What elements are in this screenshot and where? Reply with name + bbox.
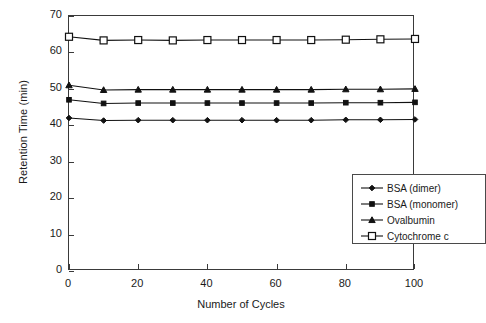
legend-marker-icon xyxy=(359,213,385,227)
y-axis-tick-label: 40 xyxy=(24,118,62,129)
y-axis-tick xyxy=(69,89,74,90)
data-point xyxy=(66,33,73,40)
y-axis-tick xyxy=(69,52,74,53)
data-point xyxy=(66,82,72,88)
plot-area: BSA (dimer)BSA (monomer)OvalbuminCytochr… xyxy=(68,15,414,270)
y-axis-tick xyxy=(69,162,74,163)
series-bsa-monomer xyxy=(67,97,418,105)
data-point xyxy=(204,37,211,44)
data-point xyxy=(135,117,141,123)
data-point xyxy=(239,37,246,44)
data-point xyxy=(412,35,419,42)
legend-item: Ovalbumin xyxy=(359,212,485,228)
y-axis-tick-label: 30 xyxy=(24,155,62,166)
legend-label: BSA (dimer) xyxy=(385,183,441,194)
y-axis-tick xyxy=(69,198,74,199)
data-point xyxy=(171,101,176,106)
y-axis-tick-label: 60 xyxy=(24,45,62,56)
data-point xyxy=(377,36,384,43)
data-point xyxy=(412,117,418,123)
data-point xyxy=(342,36,349,43)
legend-marker-icon xyxy=(359,229,385,243)
legend-marker-icon xyxy=(359,197,385,211)
y-axis-tick-label: 50 xyxy=(24,82,62,93)
data-point xyxy=(170,117,176,123)
y-axis-tick xyxy=(69,16,74,17)
y-axis-tick-label: 0 xyxy=(24,264,62,275)
x-axis-tick xyxy=(138,264,139,269)
x-axis-tick xyxy=(346,264,347,269)
data-point xyxy=(101,101,106,106)
x-axis-tick-label: 40 xyxy=(186,278,226,289)
data-point xyxy=(309,101,314,106)
x-axis-title: Number of Cycles xyxy=(68,298,414,310)
x-axis-tick-label: 0 xyxy=(48,278,88,289)
data-point xyxy=(240,101,245,106)
series-cytochrome-c xyxy=(66,33,419,44)
data-point xyxy=(413,100,418,105)
data-point xyxy=(239,117,245,123)
legend-item: Cytochrome c xyxy=(359,228,485,244)
data-point xyxy=(343,117,349,123)
y-axis-tick xyxy=(69,271,74,272)
data-point xyxy=(274,101,279,106)
legend-label: Ovalbumin xyxy=(385,215,435,226)
legend-marker-icon xyxy=(359,181,385,195)
data-point xyxy=(101,118,107,124)
y-axis-tick-label: 70 xyxy=(24,9,62,20)
data-point xyxy=(66,115,72,121)
x-axis-tick-label: 100 xyxy=(394,278,434,289)
data-point xyxy=(205,101,210,106)
data-point xyxy=(378,117,384,123)
data-point xyxy=(274,117,280,123)
data-point xyxy=(344,100,349,105)
y-axis-tick xyxy=(69,125,74,126)
data-point xyxy=(67,97,72,102)
x-axis-tick-label: 20 xyxy=(117,278,157,289)
x-axis-tick-label: 80 xyxy=(325,278,365,289)
x-axis-tick-label: 60 xyxy=(256,278,296,289)
data-point xyxy=(135,37,142,44)
legend-item: BSA (dimer) xyxy=(359,180,485,196)
x-axis-tick xyxy=(414,264,415,269)
data-point xyxy=(273,37,280,44)
chart-legend: BSA (dimer)BSA (monomer)OvalbuminCytochr… xyxy=(352,174,486,244)
data-point xyxy=(205,117,211,123)
x-axis-tick xyxy=(207,264,208,269)
data-point xyxy=(136,101,141,106)
y-axis-tick-label: 20 xyxy=(24,191,62,202)
x-axis-tick xyxy=(277,264,278,269)
legend-label: BSA (monomer) xyxy=(385,199,458,210)
data-point xyxy=(169,37,176,44)
series-bsa-dimer xyxy=(66,115,418,123)
data-point xyxy=(308,117,314,123)
data-point xyxy=(308,37,315,44)
x-axis-tick xyxy=(69,264,70,269)
y-axis-tick xyxy=(69,235,74,236)
legend-label: Cytochrome c xyxy=(385,231,449,242)
legend-item: BSA (monomer) xyxy=(359,196,485,212)
series-ovalbumin xyxy=(66,82,418,92)
y-axis-tick-label: 10 xyxy=(24,228,62,239)
data-point xyxy=(100,37,107,44)
data-point xyxy=(378,100,383,105)
